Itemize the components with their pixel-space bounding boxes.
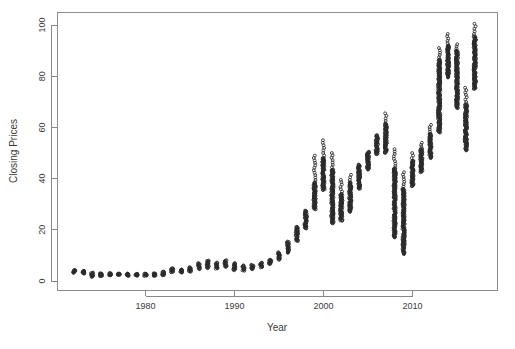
x-tick-label: 2000 [313, 301, 333, 311]
y-tick-label: 40 [37, 174, 47, 184]
x-axis-title: Year [267, 322, 288, 333]
scatter-plot-figure: 020406080100 1980199020002010 Closing Pr… [0, 0, 515, 349]
x-tick-label: 1990 [224, 301, 244, 311]
x-tick-label: 2010 [402, 301, 422, 311]
closing-prices-scatter-chart: 020406080100 1980199020002010 Closing Pr… [0, 0, 515, 349]
y-tick-label: 60 [37, 122, 47, 132]
x-tick-label: 1980 [135, 301, 155, 311]
y-tick-label: 20 [37, 225, 47, 235]
y-tick-label: 0 [37, 278, 47, 283]
y-tick-label: 100 [37, 17, 47, 32]
y-tick-label: 80 [37, 71, 47, 81]
chart-background [0, 0, 515, 349]
y-axis-title: Closing Prices [8, 119, 19, 183]
